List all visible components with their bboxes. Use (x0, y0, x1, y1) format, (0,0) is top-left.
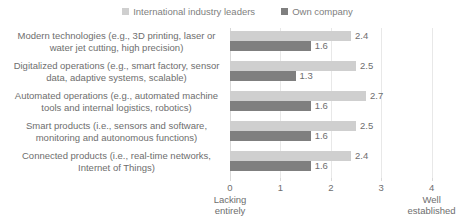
bar-group-leaders: 2.4 (230, 31, 432, 41)
bar-group-own: 1.6 (230, 41, 432, 51)
bar-own-company[interactable] (230, 161, 311, 171)
category-row: Modern technologies (e.g., 3D printing, … (230, 30, 432, 52)
category-row: Smart products (i.e., sensors and softwa… (230, 120, 432, 142)
square-marker-icon (281, 8, 288, 15)
bar-value-label: 2.4 (351, 151, 368, 161)
square-marker-icon (122, 8, 129, 15)
legend-item-label: International industry leaders (133, 7, 255, 17)
bar-value-label: 2.4 (351, 31, 368, 41)
tick-mark (230, 178, 231, 181)
bar-value-label: 2.7 (366, 91, 383, 101)
bar-value-label: 1.6 (311, 41, 328, 51)
legend-item-international-industry-leaders[interactable]: International industry leaders (122, 7, 255, 17)
bar-own-company[interactable] (230, 41, 311, 51)
x-axis: 0 Lacking entirely 1 2 3 4 Well establis… (230, 178, 432, 222)
bar-value-label: 1.6 (311, 161, 328, 171)
bar-international-industry-leaders[interactable] (230, 121, 356, 131)
category-label: Smart products (i.e., sensors and softwa… (12, 120, 230, 143)
bar-value-label: 2.5 (356, 121, 373, 131)
tick-mark (381, 178, 382, 181)
bar-own-company[interactable] (230, 101, 311, 111)
tick-mark (331, 178, 332, 181)
bar-group-own: 1.6 (230, 131, 432, 141)
bar-international-industry-leaders[interactable] (230, 31, 351, 41)
legend-item-own-company[interactable]: Own company (281, 7, 353, 17)
x-tick-4: 4 Well established (397, 182, 467, 216)
bar-value-label: 2.5 (356, 61, 373, 71)
bar-group-own: 1.6 (230, 161, 432, 171)
gridline-4 (432, 28, 433, 178)
category-row: Automated operations (e.g., automated ma… (230, 90, 432, 112)
bar-group-own: 1.3 (230, 71, 432, 81)
tick-mark (432, 178, 433, 181)
category-label: Modern technologies (e.g., 3D printing, … (12, 30, 230, 53)
bar-value-label: 1.3 (296, 71, 313, 81)
bar-group-leaders: 2.5 (230, 61, 432, 71)
chart-legend: International industry leaders Own compa… (0, 7, 475, 17)
legend-item-label: Own company (292, 7, 353, 17)
bar-international-industry-leaders[interactable] (230, 151, 351, 161)
bar-international-industry-leaders[interactable] (230, 91, 366, 101)
bar-international-industry-leaders[interactable] (230, 61, 356, 71)
bar-group-leaders: 2.4 (230, 151, 432, 161)
category-label: Automated operations (e.g., automated ma… (12, 90, 230, 113)
bar-group-leaders: 2.5 (230, 121, 432, 131)
bar-own-company[interactable] (230, 131, 311, 141)
category-row: Connected products (i.e., real-time netw… (230, 150, 432, 172)
axis-low-caption-line1: Lacking (195, 194, 265, 205)
plot-area: Modern technologies (e.g., 3D printing, … (230, 28, 432, 178)
tick-mark (280, 178, 281, 181)
bar-group-leaders: 2.7 (230, 91, 432, 101)
bar-value-label: 1.6 (311, 131, 328, 141)
category-row: Digitalized operations (e.g., smart fact… (230, 60, 432, 82)
axis-high-caption-line1: Well (397, 194, 467, 205)
category-label: Connected products (i.e., real-time netw… (12, 150, 230, 173)
bar-own-company[interactable] (230, 71, 296, 81)
bar-chart: International industry leaders Own compa… (0, 0, 475, 224)
bar-value-label: 1.6 (311, 101, 328, 111)
bar-group-own: 1.6 (230, 101, 432, 111)
axis-high-caption-line2: established (397, 205, 467, 216)
axis-low-caption-line2: entirely (195, 205, 265, 216)
category-label: Digitalized operations (e.g., smart fact… (12, 60, 230, 83)
x-tick-label: 4 (397, 182, 467, 194)
